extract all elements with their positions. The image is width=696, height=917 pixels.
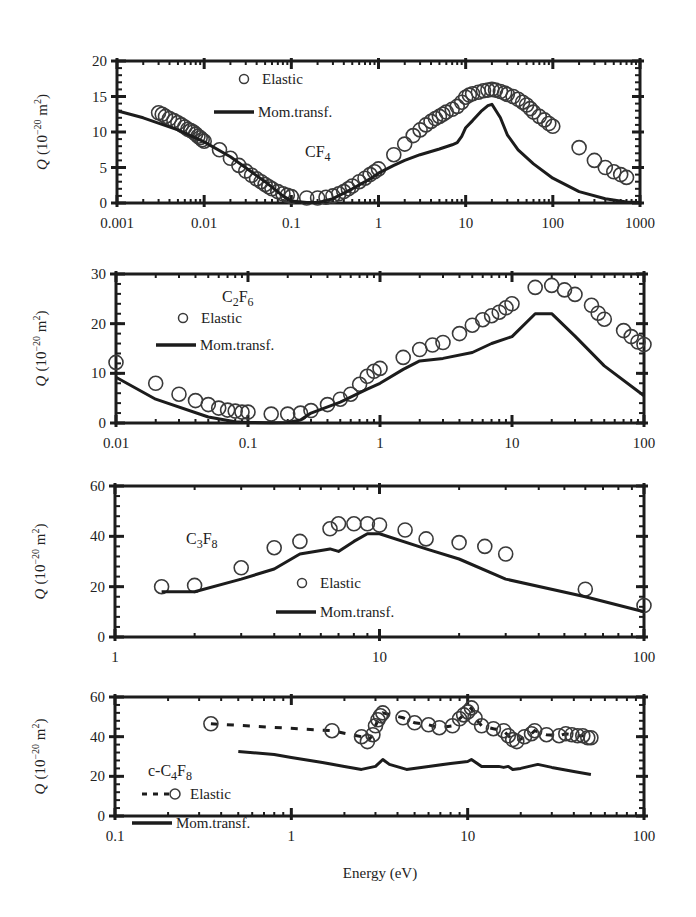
y-label-units: (10	[32, 760, 49, 780]
series-momentum-transfer-line	[117, 104, 640, 202]
y-label-symbol: Q	[32, 783, 48, 794]
y-axis-label: Q(10−20 m2)	[30, 524, 49, 600]
panel-c3f8: 1101000204060Q(10−20 m2)ElasticMom.trans…	[30, 478, 655, 665]
elastic-data-point	[323, 522, 337, 536]
x-axis-label: Energy (eV)	[343, 865, 417, 882]
x-tick-label: 0.01	[103, 435, 129, 451]
legend-item-mom-transf: Mom.transf.	[156, 337, 274, 353]
y-label-close: )	[34, 94, 51, 99]
elastic-data-point	[572, 141, 586, 155]
series-momentum-transfer-line	[238, 752, 591, 775]
y-label-m: m	[34, 104, 50, 120]
y-label-symbol: Q	[32, 588, 48, 599]
elastic-data-point	[528, 280, 542, 294]
elastic-data-point	[419, 532, 433, 546]
y-label-exponent: −20	[30, 744, 41, 760]
molecule-subscript: 4	[325, 150, 331, 164]
elastic-data-point	[149, 376, 163, 390]
legend-item-elastic: Elastic	[179, 310, 243, 326]
molecule-base: C	[160, 762, 171, 779]
elastic-data-point	[398, 523, 412, 537]
elastic-data-point	[453, 327, 467, 341]
y-tick-label: 60	[90, 478, 105, 494]
x-tick-label: 1000	[625, 215, 655, 231]
molecule-label: C2F6	[222, 288, 254, 309]
panel-cf4: 0.0010.010.1110100100005101520Q(10−20 m2…	[32, 53, 655, 231]
elastic-data-point	[499, 547, 513, 561]
y-label-close: )	[33, 311, 50, 316]
legend-item-mom-transf: Mom.transf.	[214, 104, 332, 120]
y-label-m: m	[33, 320, 49, 336]
elastic-data-point	[581, 731, 595, 745]
y-tick-label: 60	[90, 689, 105, 705]
elastic-data-point	[436, 336, 450, 350]
elastic-data-point	[396, 350, 410, 364]
y-label-close: )	[32, 524, 49, 529]
elastic-data-point	[413, 343, 427, 357]
elastic-data-point	[234, 561, 248, 575]
y-tick-label: 0	[98, 629, 106, 645]
elastic-data-point	[450, 99, 464, 113]
y-axis-label: Q(10−20 m2)	[31, 311, 50, 387]
y-tick-label: 15	[92, 89, 107, 105]
elastic-data-point	[189, 394, 203, 408]
y-tick-label: 20	[90, 768, 105, 784]
y-label-units: (10	[32, 565, 49, 585]
legend-label: Elastic	[262, 71, 303, 87]
y-label-units: (10	[33, 352, 50, 372]
x-tick-label: 1	[288, 828, 296, 844]
legend-label: Elastic	[190, 786, 231, 802]
molecule-base: C	[222, 288, 233, 305]
figure-canvas: 0.0010.010.1110100100005101520Q(10−20 m2…	[0, 0, 696, 917]
panel-c-c4f8: 0.11101000204060Q(10−20 m2)ElasticMom.tr…	[30, 689, 655, 844]
x-tick-label: 100	[633, 649, 656, 665]
elastic-data-point	[398, 137, 412, 151]
molecule-base2: F	[239, 288, 248, 305]
elastic-data-point	[264, 407, 278, 421]
elastic-data-point	[584, 731, 598, 745]
x-tick-label: 10	[372, 649, 387, 665]
y-tick-label: 0	[98, 808, 106, 824]
elastic-data-point	[478, 539, 492, 553]
y-tick-label: 30	[91, 266, 106, 282]
molecule-label: C3F8	[186, 530, 218, 551]
panel-c2f6: 0.010.11101000102030Q(10−20 m2)ElasticMo…	[31, 266, 655, 451]
legend-item-mom-transf: Mom.transf.	[276, 604, 394, 620]
x-tick-label: 100	[633, 435, 656, 451]
y-label-close: )	[32, 719, 49, 724]
elastic-data-point	[293, 534, 307, 548]
chart-panels: 0.0010.010.1110100100005101520Q(10−20 m2…	[30, 53, 655, 844]
elastic-data-point	[597, 312, 611, 326]
legend-label: Mom.transf.	[200, 337, 274, 353]
elastic-data-point	[598, 161, 612, 175]
y-tick-label: 10	[92, 124, 107, 140]
elastic-data-point	[545, 278, 559, 292]
x-tick-label: 100	[542, 215, 565, 231]
x-tick-label: 10	[460, 828, 475, 844]
elastic-data-point	[452, 536, 466, 550]
y-tick-label: 10	[91, 365, 106, 381]
x-tick-label: 0.1	[282, 215, 301, 231]
y-tick-label: 20	[90, 579, 105, 595]
y-tick-label: 0	[100, 195, 108, 211]
x-tick-label: 0.01	[191, 215, 217, 231]
y-label-exponent: −20	[31, 336, 42, 352]
x-tick-label: 1	[375, 215, 383, 231]
legend-item-elastic: Elastic	[142, 786, 231, 802]
elastic-data-point	[172, 387, 186, 401]
molecule-subscript2: 6	[248, 295, 254, 309]
molecule-base: CF	[305, 143, 325, 160]
series-momentum-transfer-line	[162, 534, 644, 612]
legend-label: Mom.transf.	[320, 604, 394, 620]
y-tick-label: 20	[91, 316, 106, 332]
molecule-prefix: c-	[148, 762, 160, 779]
x-tick-label: 0.001	[100, 215, 134, 231]
x-tick-label: 10	[505, 435, 520, 451]
y-label-symbol: Q	[33, 375, 49, 386]
x-tick-label: 1	[376, 435, 384, 451]
legend-circle-icon	[179, 314, 188, 323]
y-label-exponent: −20	[30, 549, 41, 565]
legend-label: Elastic	[320, 575, 361, 591]
x-tick-label: 1	[111, 649, 119, 665]
y-tick-label: 20	[92, 53, 107, 69]
